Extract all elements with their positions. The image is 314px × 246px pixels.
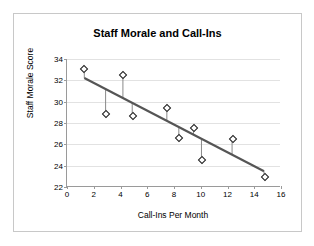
plot-area: 22242628303234 0246810121416 [66, 59, 280, 187]
x-tick-mark [94, 186, 95, 189]
x-tick-label: 8 [172, 190, 176, 199]
x-tick-mark [201, 186, 202, 189]
chart-frame: Staff Morale and Call-Ins Staff Morale S… [13, 13, 302, 232]
x-tick-mark [174, 186, 175, 189]
y-tick-label: 24 [54, 161, 63, 170]
x-tick-label: 0 [65, 190, 69, 199]
x-tick-mark [228, 186, 229, 189]
y-tick-label: 30 [54, 97, 63, 106]
x-tick-mark [67, 186, 68, 189]
x-tick-mark [281, 186, 282, 189]
x-tick-mark [254, 186, 255, 189]
x-tick-label: 4 [118, 190, 122, 199]
y-axis-title: Staff Morale Score [25, 19, 35, 147]
x-tick-mark [147, 186, 148, 189]
y-tick-label: 22 [54, 183, 63, 192]
trend-line-segment [84, 78, 264, 171]
y-tick-label: 32 [54, 76, 63, 85]
x-axis-title: Call-Ins Per Month [66, 210, 280, 220]
x-tick-label: 14 [250, 190, 259, 199]
x-tick-label: 6 [145, 190, 149, 199]
trend-line [84, 78, 264, 171]
x-tick-label: 12 [223, 190, 232, 199]
x-tick-label: 16 [277, 190, 286, 199]
y-tick-label: 28 [54, 119, 63, 128]
y-tick-label: 26 [54, 140, 63, 149]
data-layer [67, 59, 280, 186]
x-tick-label: 10 [196, 190, 205, 199]
x-tick-mark [121, 186, 122, 189]
y-tick-label: 34 [54, 55, 63, 64]
chart-title: Staff Morale and Call-Ins [14, 27, 301, 39]
x-tick-label: 2 [92, 190, 96, 199]
residual-lines [84, 69, 264, 177]
